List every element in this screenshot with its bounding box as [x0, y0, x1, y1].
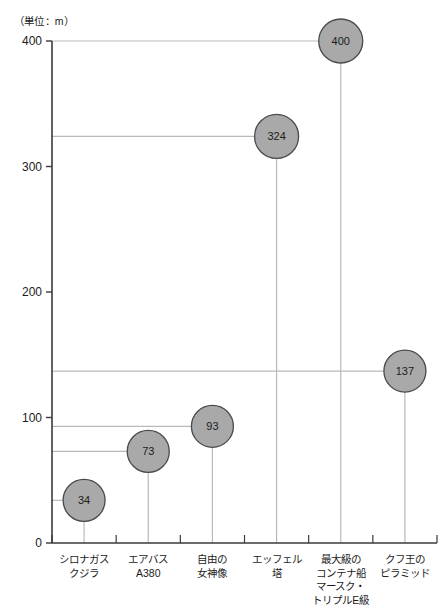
- y-tick-label: 100: [22, 411, 42, 425]
- data-point-value-label: 34: [78, 494, 90, 506]
- chart-plot-area: 0100200300400 347393324400137: [0, 0, 448, 613]
- x-tick-group: [52, 535, 437, 543]
- x-axis-category-label: 自由の 女神像: [180, 553, 244, 580]
- data-point-value-label: 400: [332, 35, 350, 47]
- data-point-value-label: 324: [267, 130, 285, 142]
- stem-line-group: [84, 63, 405, 543]
- data-point-group: 347393324400137: [63, 19, 426, 521]
- x-axis-category-label: エアバス A380: [116, 553, 180, 580]
- y-tick-group: 0100200300400: [22, 34, 52, 550]
- data-point-value-label: 73: [142, 445, 154, 457]
- x-axis-category-label: シロナガス クジラ: [52, 553, 116, 580]
- data-point-value-label: 137: [396, 365, 414, 377]
- axis-group: [52, 41, 437, 543]
- y-tick-label: 300: [22, 160, 42, 174]
- y-tick-label: 0: [35, 536, 42, 550]
- y-tick-label: 400: [22, 34, 42, 48]
- y-tick-label: 200: [22, 285, 42, 299]
- x-axis-category-label: エッフェル 塔: [245, 553, 309, 580]
- x-axis-category-label: クフ王の ピラミッド: [373, 553, 437, 580]
- x-axis-category-label: 最大級の コンテナ船 マースク・ トリプルE級: [309, 553, 373, 607]
- bubble-height-chart: （単位：m） 0100200300400 347393324400137 シロナ…: [0, 0, 448, 613]
- data-point-value-label: 93: [206, 420, 218, 432]
